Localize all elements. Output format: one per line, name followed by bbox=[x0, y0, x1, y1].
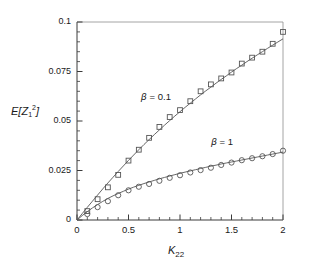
series-annotation-0: β = 0.1 bbox=[141, 91, 171, 102]
series-curve-1 bbox=[77, 152, 283, 220]
data-point-circle bbox=[219, 162, 224, 167]
y-tick-label: 0.025 bbox=[25, 165, 71, 175]
plot-canvas bbox=[0, 0, 314, 268]
x-tick-label: 0 bbox=[62, 224, 92, 235]
y-tick-label: 0.1 bbox=[25, 16, 71, 26]
x-tick-label: 1.5 bbox=[217, 224, 247, 235]
series-annotation-1: β = 1 bbox=[211, 136, 233, 147]
data-point-square bbox=[198, 89, 203, 94]
figure-container: E[Z12] K22 00.0250.050.0750.1 00.511.52 … bbox=[0, 0, 314, 268]
y-tick-label: 0.05 bbox=[25, 115, 71, 125]
data-point-circle bbox=[95, 205, 100, 210]
x-tick-label: 1 bbox=[165, 224, 195, 235]
y-tick-label: 0.075 bbox=[25, 66, 71, 76]
y-tick-label: 0 bbox=[25, 214, 71, 224]
data-point-circle bbox=[105, 199, 110, 204]
series-curve-0 bbox=[77, 39, 283, 220]
annotation-value: = 0.1 bbox=[147, 91, 171, 102]
annotation-value: = 1 bbox=[217, 136, 233, 147]
x-tick-label: 0.5 bbox=[114, 224, 144, 235]
x-tick-label: 2 bbox=[268, 224, 298, 235]
x-axis-label-subscript: 22 bbox=[175, 250, 184, 259]
x-axis-label: K22 bbox=[168, 244, 184, 259]
data-point-square bbox=[106, 185, 111, 190]
y-axis-label-prefix: E[ bbox=[11, 105, 21, 117]
